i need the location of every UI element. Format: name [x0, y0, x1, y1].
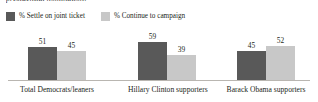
bar-group-total-democrats: 51 45: [18, 28, 96, 80]
bar-wrap-continue: 52: [266, 28, 295, 80]
bar-settle: [138, 42, 167, 80]
bar-pair: 59 39: [138, 28, 196, 80]
bar-wrap-settle: 51: [28, 28, 57, 80]
bar-group-hillary-clinton: 59 39: [128, 28, 206, 80]
bar-continue: [266, 46, 295, 80]
legend-label-continue: % Continue to campaign: [114, 12, 185, 21]
bar-group-barack-obama: 45 52: [226, 28, 306, 80]
bar-value-label: 52: [277, 37, 284, 45]
legend-swatch-icon-settle: [6, 12, 15, 21]
category-label-hillary-clinton: Hillary Clinton supporters: [128, 85, 206, 95]
bar-wrap-continue: 39: [167, 28, 196, 80]
bar-pair: 51 45: [28, 28, 86, 80]
bar-wrap-settle: 59: [138, 28, 167, 80]
bar-value-label: 59: [149, 33, 156, 41]
plot-area: 51 45 59 39: [0, 28, 318, 81]
legend-label-settle: % Settle on joint ticket: [19, 12, 85, 21]
bar-wrap-continue: 45: [57, 28, 86, 80]
axis-baseline: [8, 80, 310, 81]
category-axis: Total Democrats/leaners Hillary Clinton …: [0, 85, 318, 99]
category-label-barack-obama: Barack Obama supporters: [226, 85, 306, 95]
legend-item-settle: % Settle on joint ticket: [6, 12, 85, 21]
bar-value-label: 45: [68, 42, 75, 50]
chart-legend: % Settle on joint ticket % Continue to c…: [6, 10, 201, 22]
bar-pair: 45 52: [237, 28, 295, 80]
bar-value-label: 51: [39, 38, 46, 46]
legend-item-continue: % Continue to campaign: [101, 12, 185, 21]
bar-continue: [57, 51, 86, 80]
bar-continue: [167, 55, 196, 80]
bar-value-label: 39: [178, 46, 185, 54]
bar-wrap-settle: 45: [237, 28, 266, 80]
chart-headline-clipped: presidential nomination:: [6, 0, 306, 3]
legend-swatch-icon-continue: [101, 12, 110, 21]
category-label-total-democrats: Total Democrats/leaners: [18, 85, 96, 95]
bar-settle: [237, 51, 266, 80]
bar-value-label: 45: [248, 42, 255, 50]
bar-chart: presidential nomination: % Settle on joi…: [0, 0, 318, 102]
bar-settle: [28, 47, 57, 80]
